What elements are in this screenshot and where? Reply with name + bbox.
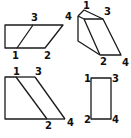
panel-bottom-right: 1 3 2 4 xyxy=(84,73,119,125)
label-1: 1 xyxy=(84,73,91,84)
label-2: 2 xyxy=(44,50,51,61)
label-4: 4 xyxy=(65,11,72,22)
label-3: 3 xyxy=(112,73,119,84)
label-1: 1 xyxy=(12,50,19,61)
label-4: 4 xyxy=(112,114,119,125)
panel-top-left: 3 4 1 2 xyxy=(5,11,72,61)
panel-bottom-left: 1 3 2 4 xyxy=(5,66,74,131)
label-3: 3 xyxy=(31,12,38,23)
panel-top-right: 1 3 2 4 xyxy=(78,0,129,68)
label-4: 4 xyxy=(122,57,129,68)
label-2: 2 xyxy=(84,114,91,125)
label-1: 1 xyxy=(83,0,90,11)
label-3: 3 xyxy=(104,6,111,17)
label-2: 2 xyxy=(45,120,52,131)
folding-diagram: 3 4 1 2 1 3 2 4 1 3 2 4 1 3 2 4 xyxy=(0,0,131,138)
label-4: 4 xyxy=(67,117,74,128)
label-1: 1 xyxy=(13,66,20,77)
label-2: 2 xyxy=(100,56,107,67)
label-3: 3 xyxy=(35,66,42,77)
